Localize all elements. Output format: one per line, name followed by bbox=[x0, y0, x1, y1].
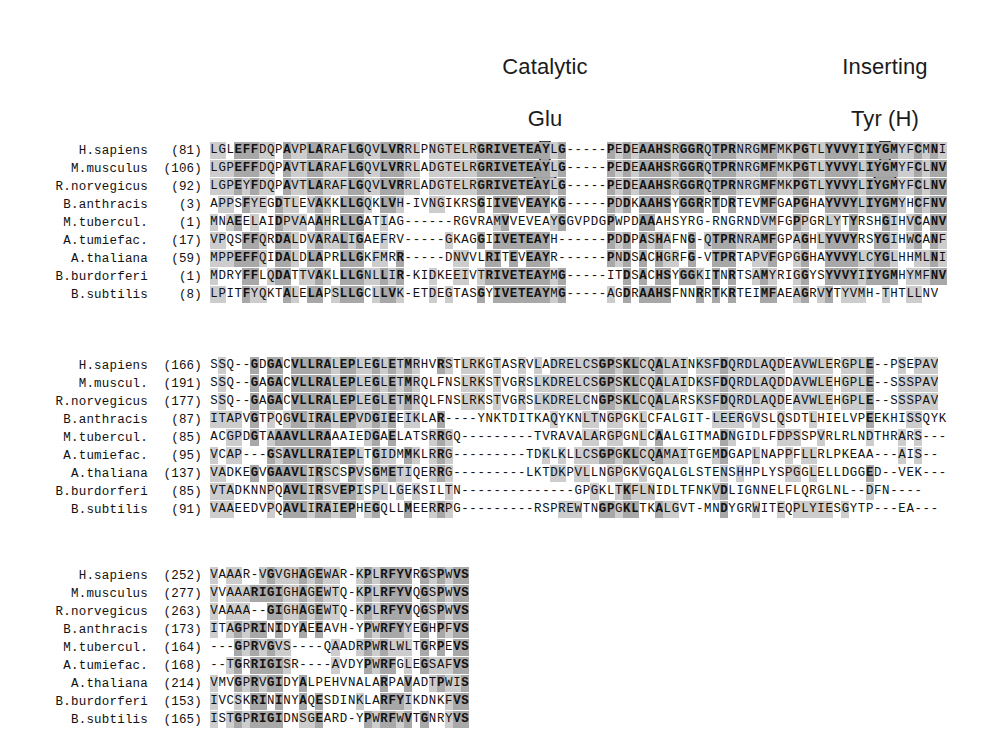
residue: C bbox=[226, 693, 234, 710]
residue: Y bbox=[849, 268, 857, 285]
residue: I bbox=[493, 160, 501, 177]
residue: - bbox=[874, 375, 882, 392]
residue: A bbox=[275, 357, 283, 374]
residue: L bbox=[817, 142, 825, 159]
residue: P bbox=[348, 375, 356, 392]
residue: Q bbox=[768, 357, 776, 374]
residue: V bbox=[938, 178, 946, 195]
residue: A bbox=[226, 483, 234, 500]
residue: F bbox=[437, 393, 445, 410]
residue: K bbox=[356, 693, 364, 710]
residue: R bbox=[744, 142, 752, 159]
residue: A bbox=[234, 585, 242, 602]
residue: L bbox=[858, 357, 866, 374]
residue: A bbox=[315, 232, 323, 249]
residue: A bbox=[372, 675, 380, 692]
residue: I bbox=[736, 483, 744, 500]
residue: V bbox=[291, 178, 299, 195]
residue: L bbox=[372, 567, 380, 584]
residue: T bbox=[736, 250, 744, 267]
residue: S bbox=[801, 429, 809, 446]
residue: S bbox=[663, 142, 671, 159]
residue: G bbox=[777, 232, 785, 249]
residue: I bbox=[275, 711, 283, 728]
residue: P bbox=[752, 465, 760, 482]
residue: E bbox=[509, 286, 517, 303]
residue: - bbox=[874, 357, 882, 374]
residue: Q bbox=[267, 142, 275, 159]
residue: A bbox=[542, 411, 550, 428]
residue: E bbox=[388, 411, 396, 428]
residue: D bbox=[744, 375, 752, 392]
residue: V bbox=[372, 142, 380, 159]
residue: M bbox=[218, 675, 226, 692]
residue: S bbox=[890, 375, 898, 392]
residue: V bbox=[469, 214, 477, 231]
residue: N bbox=[429, 196, 437, 213]
residue: Y bbox=[542, 268, 550, 285]
residue: K bbox=[696, 393, 704, 410]
species-name: R.norvegicus bbox=[0, 178, 148, 196]
residue: - bbox=[599, 268, 607, 285]
residue: Q bbox=[267, 178, 275, 195]
residue: Q bbox=[226, 232, 234, 249]
residue: G bbox=[696, 214, 704, 231]
residue: D bbox=[793, 411, 801, 428]
residue: A bbox=[218, 465, 226, 482]
residue: R bbox=[315, 447, 323, 464]
residue: A bbox=[283, 160, 291, 177]
residue: D bbox=[550, 393, 558, 410]
residue: Q bbox=[267, 268, 275, 285]
residue: K bbox=[412, 411, 420, 428]
residue: F bbox=[242, 286, 250, 303]
residue: A bbox=[267, 429, 275, 446]
residue: V bbox=[760, 250, 768, 267]
residue: M bbox=[760, 232, 768, 249]
residue: V bbox=[218, 585, 226, 602]
residue: V bbox=[833, 268, 841, 285]
residue: W bbox=[372, 639, 380, 656]
residue: T bbox=[396, 357, 404, 374]
residue: - bbox=[890, 447, 898, 464]
residue: Q bbox=[364, 142, 372, 159]
residue: P bbox=[849, 393, 857, 410]
residue: D bbox=[777, 393, 785, 410]
residue: F bbox=[922, 268, 930, 285]
sequence: IVCSKRININYAQESDINKLARFYIKDNKFVS bbox=[210, 693, 469, 711]
residue: G bbox=[882, 214, 890, 231]
residue: P bbox=[226, 178, 234, 195]
residue: E bbox=[412, 657, 420, 674]
residue: - bbox=[566, 250, 574, 267]
residue: K bbox=[914, 465, 922, 482]
residue: L bbox=[712, 411, 720, 428]
residue: L bbox=[825, 214, 833, 231]
residue: R bbox=[485, 142, 493, 159]
residue: P bbox=[323, 286, 331, 303]
residue: A bbox=[283, 465, 291, 482]
residue: A bbox=[299, 585, 307, 602]
residue: D bbox=[218, 268, 226, 285]
residue: L bbox=[768, 411, 776, 428]
residue: - bbox=[445, 214, 453, 231]
residue: V bbox=[291, 447, 299, 464]
residue: R bbox=[728, 160, 736, 177]
residue: P bbox=[372, 483, 380, 500]
residue: R bbox=[671, 142, 679, 159]
residue: T bbox=[501, 411, 509, 428]
residue: C bbox=[582, 393, 590, 410]
residue: S bbox=[453, 375, 461, 392]
residue: V bbox=[210, 675, 218, 692]
residue: Y bbox=[849, 196, 857, 213]
residue: D bbox=[720, 447, 728, 464]
residue: D bbox=[299, 232, 307, 249]
residue: S bbox=[590, 375, 598, 392]
residue: R bbox=[323, 142, 331, 159]
residue: A bbox=[760, 375, 768, 392]
residue: D bbox=[752, 214, 760, 231]
residue-start-position: (166) bbox=[150, 357, 202, 375]
residue: - bbox=[599, 160, 607, 177]
residue: G bbox=[688, 268, 696, 285]
residue: R bbox=[250, 639, 258, 656]
residue: P bbox=[744, 447, 752, 464]
residue: G bbox=[801, 196, 809, 213]
